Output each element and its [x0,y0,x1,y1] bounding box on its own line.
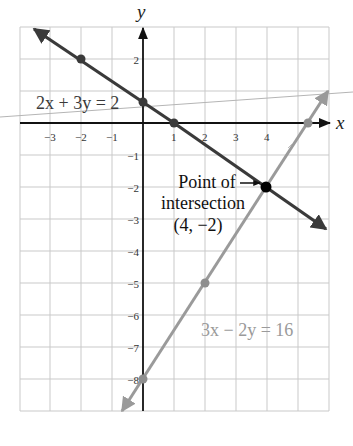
point-1-0 [170,119,179,128]
y-tick: −3 [127,214,139,226]
x-tick: 1 [171,131,177,143]
x-axis-label: x [335,112,345,133]
y-tick: −2 [127,182,139,194]
y-axis-label: y [135,1,146,22]
annotation-line-2: intersection [161,193,245,213]
y-tick: −1 [127,150,139,162]
point-16thirds-0 [304,119,313,128]
y-tick: −4 [127,246,139,258]
x-tick: −3 [44,131,56,143]
y-tick-labels: 2 −1 −2 −3 −4 −5 −6 −7 −8 [127,54,139,386]
x-tick: 4 [264,131,270,143]
graph-canvas: x y −3 −2 −1 1 2 3 4 2 −1 −2 −3 −4 −5 −6… [0,0,353,446]
y-tick: −5 [127,278,139,290]
line-3x-2y-16-upper [266,91,328,187]
annotation-line-1: Point of [178,172,236,192]
y-tick: −6 [127,310,139,322]
y-tick: 2 [134,54,140,66]
x-tick: −1 [106,131,118,143]
y-tick: −7 [127,342,139,354]
annotation-line-3: (4, −2) [173,215,222,236]
point-2-neg5 [201,279,210,288]
equation-label-1: 2x + 3y = 2 [36,93,119,113]
equation-label-2: 3x − 2y = 16 [201,320,293,340]
point-0-2thirds [139,98,148,107]
intersection-point [261,182,272,193]
point-neg2-2 [77,55,86,64]
x-tick: −2 [75,131,87,143]
x-tick-labels: −3 −2 −1 1 2 3 4 [44,131,270,143]
x-tick: 3 [233,131,239,143]
point-0-neg8 [139,375,148,384]
